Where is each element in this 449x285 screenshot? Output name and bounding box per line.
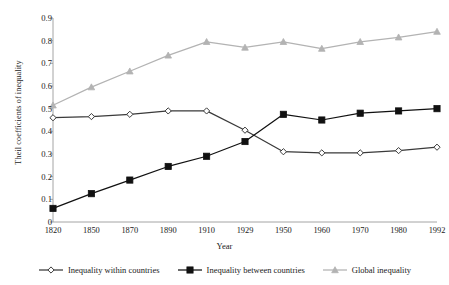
x-axis-tick-label: 1929 xyxy=(237,226,254,235)
legend-item-2[interactable]: Global inequality xyxy=(322,261,411,279)
y-axis-tick-label: 0.7 xyxy=(26,58,52,68)
x-axis-tick-label: 1850 xyxy=(83,226,100,235)
series-line xyxy=(53,109,437,209)
legend-item-1[interactable]: Inequality between countries xyxy=(177,261,305,279)
data-point-marker xyxy=(242,127,248,133)
data-point-marker xyxy=(88,114,94,120)
x-axis-tick-label: 1870 xyxy=(121,226,138,235)
data-point-marker xyxy=(319,117,325,123)
data-point-marker xyxy=(280,39,287,45)
y-axis-title: Theil coefficients of inequality xyxy=(14,33,23,193)
y-axis-tick-label: 0.2 xyxy=(26,172,52,182)
legend-item-0[interactable]: Inequality within countries xyxy=(38,261,160,279)
data-point-marker xyxy=(203,39,210,45)
data-point-marker xyxy=(127,177,133,183)
data-point-marker xyxy=(204,153,210,159)
series-line xyxy=(53,32,437,106)
legend-marker-icon xyxy=(177,261,203,279)
y-axis-tick-label: 0.4 xyxy=(26,126,52,136)
data-point-marker xyxy=(280,149,286,155)
data-point-marker xyxy=(396,148,402,154)
chart-legend: Inequality within countriesInequality be… xyxy=(0,261,449,279)
data-point-marker xyxy=(280,111,286,117)
y-axis-tick-label: 0.6 xyxy=(26,81,52,91)
data-point-marker xyxy=(165,108,171,114)
y-axis-tick-label: 0.3 xyxy=(26,149,52,159)
legend-item-label: Global inequality xyxy=(352,265,411,275)
series-2 xyxy=(50,28,441,108)
data-point-marker xyxy=(357,110,363,116)
x-axis-tick-label: 1820 xyxy=(45,226,62,235)
x-axis-tick-label: 1910 xyxy=(198,226,215,235)
data-point-marker xyxy=(48,267,54,273)
data-point-marker xyxy=(319,150,325,156)
series-1 xyxy=(50,106,440,212)
legend-item-label: Inequality within countries xyxy=(68,265,160,275)
data-point-marker xyxy=(88,191,94,197)
data-point-marker xyxy=(396,108,402,114)
x-axis-tick-label: 1980 xyxy=(390,226,407,235)
data-point-marker xyxy=(186,267,192,273)
legend-marker-icon xyxy=(38,261,64,279)
data-point-marker xyxy=(434,28,441,34)
data-point-marker xyxy=(357,150,363,156)
x-axis-tick-label: 1992 xyxy=(429,226,446,235)
x-axis-tick-label: 1960 xyxy=(313,226,330,235)
data-point-marker xyxy=(204,108,210,114)
y-axis-tick-label: 0.9 xyxy=(26,13,52,23)
x-axis-tick-label: 1970 xyxy=(352,226,369,235)
data-point-marker xyxy=(434,106,440,112)
x-axis-tick-label: 1890 xyxy=(160,226,177,235)
data-point-marker xyxy=(242,138,248,144)
data-point-marker xyxy=(434,144,440,150)
theil-inequality-line-chart: 00.10.20.30.40.50.60.70.80.9 18201850187… xyxy=(0,0,449,285)
chart-series-group xyxy=(50,28,441,211)
x-axis-tick-label: 1950 xyxy=(275,226,292,235)
legend-item-label: Inequality between countries xyxy=(207,265,305,275)
data-point-marker xyxy=(165,163,171,169)
series-0 xyxy=(50,108,440,156)
y-axis-tick-label: 0.5 xyxy=(26,104,52,114)
data-point-marker xyxy=(127,111,133,117)
y-axis-tick-label: 0.1 xyxy=(26,194,52,204)
y-axis-tick-label: 0.8 xyxy=(26,36,52,46)
legend-marker-icon xyxy=(322,261,348,279)
x-axis-title: Year xyxy=(0,241,449,251)
